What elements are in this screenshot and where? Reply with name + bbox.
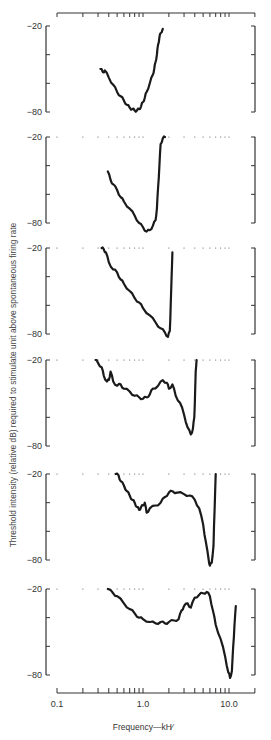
frequency-dot — [97, 473, 98, 474]
frequency-dot — [194, 247, 195, 248]
x-tick-label: 1.0 — [137, 699, 150, 709]
tuning-curve-6 — [108, 589, 236, 678]
frequency-dot — [138, 473, 139, 474]
frequency-dot — [129, 359, 130, 360]
frequency-dot — [56, 588, 57, 589]
y-axis-label-container: Threshold intensity (relative dB) requir… — [0, 0, 20, 740]
frequency-dot — [82, 247, 83, 248]
frequency-dot — [224, 473, 225, 474]
frequency-dot — [82, 588, 83, 589]
frequency-dot — [117, 247, 118, 248]
frequency-dot — [215, 247, 216, 248]
frequency-dot — [134, 247, 135, 248]
frequency-dot — [123, 247, 124, 248]
frequency-dot — [228, 473, 229, 474]
frequency-dot — [194, 473, 195, 474]
frequency-dot — [82, 359, 83, 360]
y-tick-label-bottom: −80 — [27, 329, 42, 339]
frequency-dot — [203, 473, 204, 474]
frequency-dot — [254, 588, 255, 589]
frequency-dot — [228, 247, 229, 248]
frequency-dot — [194, 136, 195, 137]
frequency-dot — [129, 473, 130, 474]
frequency-dot — [209, 473, 210, 474]
frequency-dot — [194, 359, 195, 360]
frequency-dot — [168, 473, 169, 474]
frequency-dot — [220, 136, 221, 137]
frequency-dot — [123, 473, 124, 474]
frequency-dot — [142, 473, 143, 474]
y-tick-label-top: −20 — [27, 21, 42, 31]
frequency-dot — [203, 359, 204, 360]
frequency-dot — [134, 136, 135, 137]
y-axis-label: Threshold intensity (relative dB) requir… — [8, 223, 18, 547]
frequency-dot — [123, 136, 124, 137]
frequency-dot — [228, 136, 229, 137]
frequency-dot — [117, 588, 118, 589]
y-tick-label-top: −20 — [27, 132, 42, 142]
frequency-dot — [224, 247, 225, 248]
y-tick-label-bottom: −80 — [27, 107, 42, 117]
frequency-dot — [97, 588, 98, 589]
frequency-dot — [215, 359, 216, 360]
frequency-dot — [228, 359, 229, 360]
frequency-dot — [168, 588, 169, 589]
frequency-dot — [254, 473, 255, 474]
frequency-dot — [215, 136, 216, 137]
frequency-dot — [215, 588, 216, 589]
y-tick-label-top: −20 — [27, 243, 42, 253]
frequency-dot — [138, 247, 139, 248]
x-axis-label: Frequency—kH⁄ — [113, 722, 173, 732]
frequency-dot — [138, 588, 139, 589]
tuning-curve-5 — [116, 474, 216, 566]
frequency-dot — [168, 136, 169, 137]
frequency-dot — [203, 136, 204, 137]
frequency-dot — [183, 359, 184, 360]
frequency-dot — [134, 473, 135, 474]
frequency-dot — [183, 136, 184, 137]
frequency-dot — [123, 588, 124, 589]
frequency-dot — [220, 247, 221, 248]
frequency-dot — [108, 247, 109, 248]
frequency-dot — [129, 136, 130, 137]
frequency-dot — [134, 588, 135, 589]
frequency-dot — [209, 359, 210, 360]
frequency-dot — [56, 473, 57, 474]
frequency-dot — [142, 588, 143, 589]
tuning-curve-4 — [96, 360, 197, 435]
frequency-dot — [56, 247, 57, 248]
frequency-dot — [168, 359, 169, 360]
frequency-dot — [203, 588, 204, 589]
frequency-dot — [123, 359, 124, 360]
x-tick-label: 0.1 — [51, 699, 64, 709]
frequency-dot — [129, 247, 130, 248]
frequency-dot — [108, 473, 109, 474]
y-tick-label-bottom: −80 — [27, 218, 42, 228]
y-tick-label-top: −20 — [27, 584, 42, 594]
tuning-curve-3 — [102, 248, 173, 337]
y-tick-label-top: −20 — [27, 355, 42, 365]
frequency-dot — [117, 359, 118, 360]
frequency-dot — [56, 136, 57, 137]
y-tick-label-bottom: −80 — [27, 670, 42, 680]
x-tick-label: 10.0 — [220, 699, 238, 709]
frequency-dot — [203, 247, 204, 248]
frequency-dot — [254, 359, 255, 360]
frequency-dot — [209, 136, 210, 137]
frequency-dot — [138, 359, 139, 360]
frequency-dot — [224, 359, 225, 360]
frequency-dot — [129, 588, 130, 589]
frequency-dot — [97, 247, 98, 248]
frequency-dot — [108, 136, 109, 137]
frequency-dot — [168, 247, 169, 248]
frequency-dot — [228, 588, 229, 589]
frequency-dot — [142, 136, 143, 137]
frequency-dot — [117, 136, 118, 137]
y-tick-label-bottom: −80 — [27, 555, 42, 565]
frequency-dot — [134, 359, 135, 360]
frequency-dot — [183, 247, 184, 248]
frequency-dot — [108, 359, 109, 360]
frequency-dot — [97, 136, 98, 137]
frequency-dot — [209, 247, 210, 248]
tuning-curve-1 — [100, 29, 162, 112]
